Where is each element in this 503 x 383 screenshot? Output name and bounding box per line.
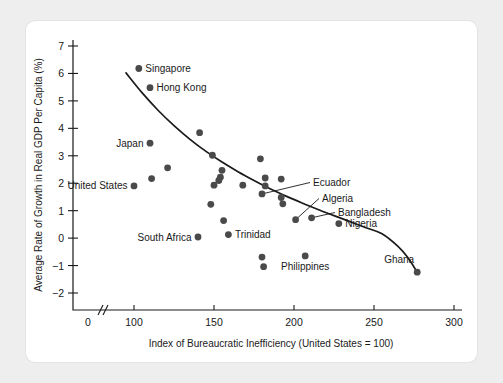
data-point-philippines [302,253,309,260]
data-point [279,200,286,207]
figure-panel: 0100150200250300 76543210−1−2 SingaporeH… [26,21,477,362]
data-point [278,194,285,201]
data-point [257,155,264,162]
point-label-japan: Japan [116,138,143,149]
data-point [239,182,246,189]
data-point [211,182,218,189]
data-point [219,167,226,174]
point-label-singapore: Singapore [145,63,191,74]
point-label-ghana: Ghana [384,254,414,265]
data-point-hong-kong [147,84,154,91]
data-point-japan [147,140,154,147]
data-point [260,263,267,270]
y-axis-title: Average Rate of Growth in Real GDP Per C… [33,58,44,292]
data-point [262,175,269,182]
point-label-south-africa: South Africa [138,232,192,243]
x-tick-label: 150 [205,316,223,328]
data-point [207,201,214,208]
y-tick-label: −2 [52,287,64,299]
y-axis-ticks: 76543210−1−2 [52,40,78,299]
data-point [209,152,216,159]
x-axis-ticks: 0100150200250300 [85,305,463,328]
y-tick-label: −1 [52,260,64,272]
x-tick-label: 300 [445,316,463,328]
x-axis-title: Index of Bureaucratic Inefficiency (Unit… [149,338,394,349]
y-tick-label: 1 [58,205,64,217]
x-tick-label: 100 [125,316,143,328]
data-point-nigeria [335,220,342,227]
data-point [278,176,285,183]
x-tick-label: 0 [85,316,91,328]
y-tick-label: 2 [58,177,64,189]
y-tick-label: 5 [58,95,64,107]
data-points [131,65,421,275]
point-labels: SingaporeHong KongJapanUnited StatesEcua… [67,63,414,272]
data-point-algeria [292,216,299,223]
data-point-singapore [135,65,142,72]
data-point [196,129,203,136]
data-point [262,183,269,190]
point-label-bangladesh: Bangladesh [338,207,391,218]
point-label-nigeria: Nigeria [345,218,377,229]
chart-canvas: 0100150200250300 76543210−1−2 SingaporeH… [26,21,477,362]
point-label-hong-kong: Hong Kong [157,82,207,93]
point-label-philippines: Philippines [281,261,329,272]
y-tick-label: 0 [58,232,64,244]
data-point-trinidad [225,231,232,238]
data-point [220,217,227,224]
data-point-bangladesh [308,214,315,221]
scatter-plot: 0100150200250300 76543210−1−2 SingaporeH… [26,21,477,362]
y-tick-label: 3 [58,150,64,162]
data-point [148,175,155,182]
data-point-ghana [414,269,421,276]
x-tick-label: 200 [285,316,303,328]
data-point-south-africa [195,234,202,241]
y-tick-label: 6 [58,67,64,79]
point-label-trinidad: Trinidad [235,229,271,240]
point-label-united-states: United States [67,180,127,191]
y-tick-label: 4 [58,122,64,134]
data-point [259,254,266,261]
data-point [164,164,171,171]
point-label-ecuador: Ecuador [313,177,351,188]
point-label-algeria: Algeria [322,193,354,204]
data-point-ecuador [259,191,266,198]
x-tick-label: 250 [365,316,383,328]
data-point-united-states [131,183,138,190]
y-tick-label: 7 [58,40,64,52]
